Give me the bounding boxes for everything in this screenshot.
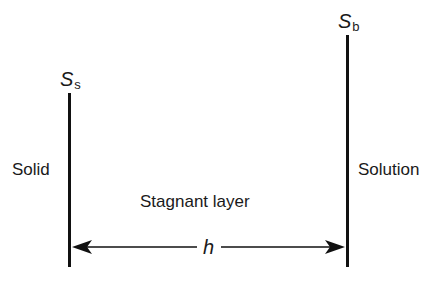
thickness-label: h <box>203 236 214 258</box>
diagram: Ss Solid Sb Solution Stagnant layer h <box>0 0 443 283</box>
thickness-arrow <box>0 0 443 283</box>
